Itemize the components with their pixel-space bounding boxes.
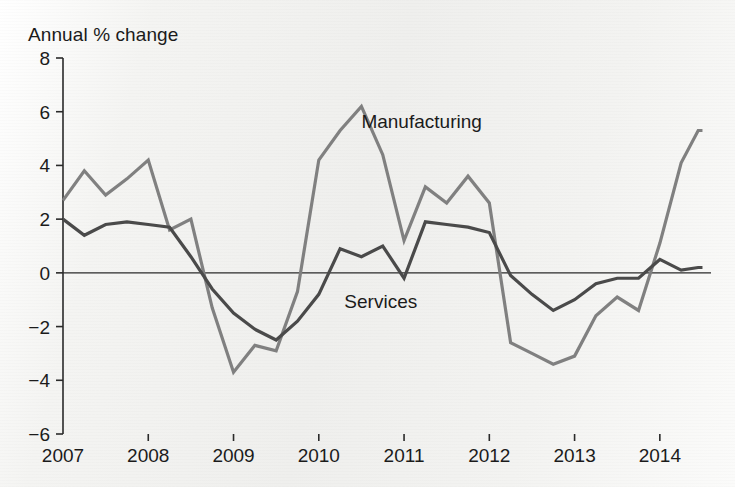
y-tick-label: −6 [28,424,50,445]
series-line-manufacturing [63,106,702,372]
series-line-services [63,219,702,340]
series-label-services: Services [344,291,417,312]
line-chart: Annual % change 86420−2−4−6 200720082009… [0,0,735,487]
x-tick-label: 2009 [212,445,254,466]
y-tick-label: 8 [39,48,50,69]
y-tick-label: −4 [28,370,50,391]
x-tick-label: 2008 [127,445,169,466]
x-tick-label: 2014 [639,445,682,466]
y-axis-tick-labels: 86420−2−4−6 [28,48,50,445]
y-axis-tick-marks [56,58,63,434]
x-axis-tick-labels: 20072008200920102011201220132014 [42,445,682,466]
x-tick-label: 2013 [553,445,595,466]
y-tick-label: 0 [39,263,50,284]
x-tick-label: 2010 [298,445,340,466]
series-label-manufacturing: Manufacturing [361,111,481,132]
y-tick-label: 4 [39,155,50,176]
y-tick-label: −2 [28,317,50,338]
x-axis-tick-marks [148,434,660,441]
y-tick-label: 2 [39,209,50,230]
x-tick-label: 2012 [468,445,510,466]
series-annotation-group: ManufacturingServices [344,111,481,312]
plot-area: 86420−2−4−6 2007200820092010201120122013… [0,0,735,487]
x-tick-label: 2011 [384,445,425,466]
y-tick-label: 6 [39,102,50,123]
x-tick-label: 2007 [42,445,84,466]
data-series-group [63,106,702,372]
